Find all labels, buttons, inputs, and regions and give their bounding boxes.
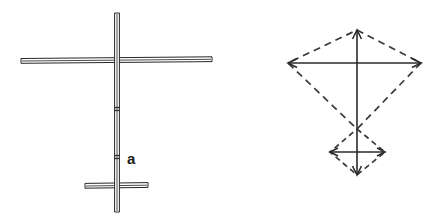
right-panel-kite-outline [288, 30, 421, 175]
vertical-spine-spar [115, 13, 120, 212]
large-dashed-diamond [288, 30, 421, 129]
dimension-label-a: a [127, 150, 136, 167]
figure-canvas: a [0, 0, 441, 222]
left-panel-cross-frame: a [21, 13, 212, 212]
kite-diagram-svg: a [0, 0, 441, 222]
